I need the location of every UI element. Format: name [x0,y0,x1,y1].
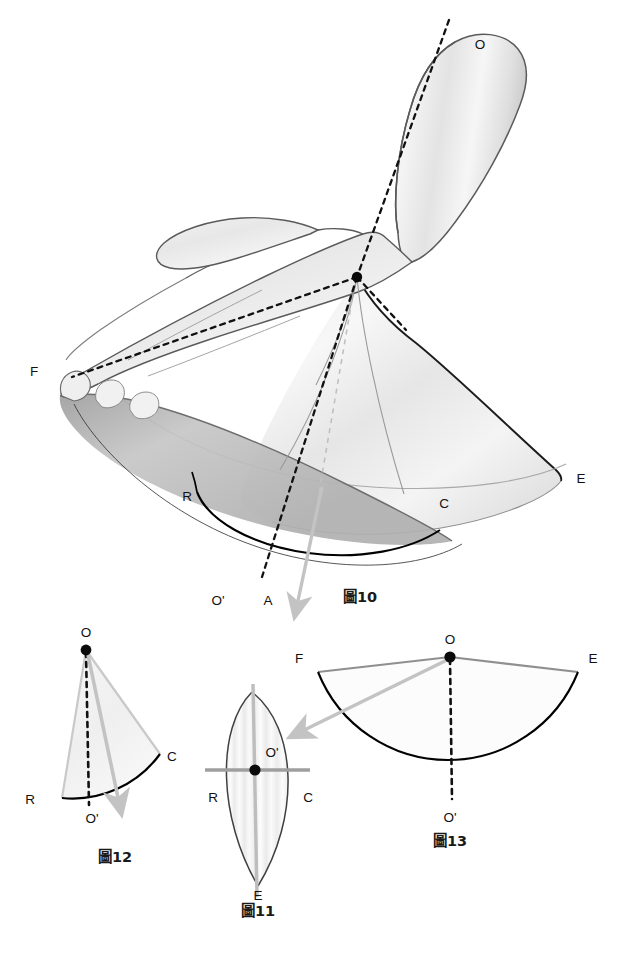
fig10-label-O: O [475,37,486,52]
fig11-label-O-prime: O' [265,745,278,760]
fig11-center-dot-O-prime [249,764,260,775]
fig13-caption: 圖13 [433,832,467,849]
fig10-label-R: R [182,489,192,504]
fig11-caption: 圖11 [241,902,275,919]
diagram-page: O F E R C O' A 圖10 O C R O' [0,0,628,954]
fig10-forearm [396,34,527,262]
fig11-label-C: C [303,790,313,805]
figure-11: O' R C E 圖11 [205,684,313,919]
fig10-label-C: C [439,496,449,511]
fig13-label-O-prime: O' [443,810,456,825]
fig10-apex-dot-O [352,272,362,282]
fig13-sector-fill [318,657,578,760]
fig13-label-E: E [588,651,597,666]
fig13-apex-dot-O [444,651,455,662]
fig12-caption: 圖12 [98,848,132,865]
figure-13: O F E O' 圖13 [292,632,598,849]
fig12-label-R: R [25,792,35,807]
fig13-label-F: F [295,651,303,666]
figure-10: O F E R C O' A 圖10 [30,20,586,615]
fig10-label-O-prime: O' [211,593,224,608]
fig11-label-E: E [253,888,262,903]
diagram-canvas: O F E R C O' A 圖10 O C R O' [0,0,628,954]
fig10-caption: 圖10 [343,588,377,605]
fig10-label-A: A [263,593,272,608]
fig12-apex-dot-O [81,645,92,656]
fig12-label-O: O [81,625,92,640]
fig11-label-R: R [208,790,218,805]
fig13-label-O: O [445,632,456,647]
figure-12: O C R O' 圖12 [25,625,177,865]
fig12-sector-fill [62,650,160,799]
fig12-label-C: C [167,749,177,764]
fig12-label-O-prime: O' [85,811,98,826]
fig10-label-F: F [30,364,38,379]
fig10-label-E: E [576,471,585,486]
